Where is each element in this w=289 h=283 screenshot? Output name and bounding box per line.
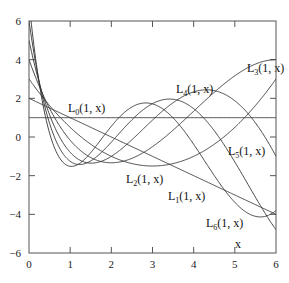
curve-label-l3: L3(1, x) [247, 61, 284, 77]
curve-label-l2: L2(1, x) [126, 172, 163, 188]
y-tick-label: 4 [16, 54, 22, 66]
y-tick-label: −4 [9, 208, 21, 220]
curve-label-l5: L5(1, x) [228, 144, 265, 160]
x-tick-label: 1 [67, 258, 73, 270]
laguerre-chart: 0123456−6−4−20246 L0(1, x)L1(1, x)L2(1, … [0, 0, 289, 283]
tick-labels: 0123456−6−4−20246 [9, 15, 279, 270]
curve-label-l0: L0(1, x) [68, 101, 105, 117]
curve-label-l6: L6(1, x) [206, 216, 243, 232]
y-tick-label: −2 [9, 170, 21, 182]
y-tick-label: 2 [16, 92, 22, 104]
y-tick-label: 6 [16, 15, 22, 27]
x-tick-label: 0 [26, 258, 32, 270]
curve-labels: L0(1, x)L1(1, x)L2(1, x)L3(1, x)L4(1, x)… [68, 61, 284, 232]
y-tick-label: 0 [16, 131, 22, 143]
curve-l5 [29, 21, 276, 230]
curve-label-l1: L1(1, x) [168, 189, 205, 205]
x-tick-label: 5 [232, 258, 238, 270]
x-tick-label: 4 [191, 258, 197, 270]
x-tick-label: 3 [150, 258, 156, 270]
x-axis-label: x [235, 237, 241, 251]
x-tick-label: 2 [109, 258, 115, 270]
curve-label-l4: L4(1, x) [176, 82, 213, 98]
curves [29, 2, 276, 230]
x-tick-label: 6 [273, 258, 279, 270]
y-tick-label: −6 [9, 247, 21, 259]
